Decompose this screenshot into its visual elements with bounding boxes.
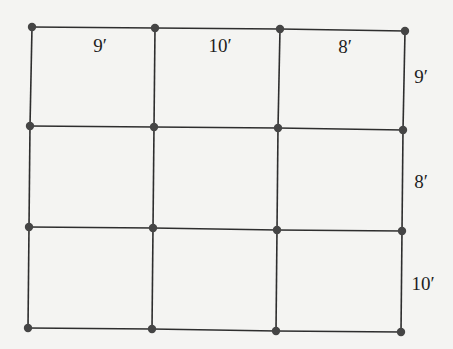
vertex-dot bbox=[399, 126, 407, 134]
grid-vertices bbox=[24, 23, 409, 336]
vertex-dot bbox=[148, 325, 156, 333]
vertex-dot bbox=[150, 123, 158, 131]
vertical-edge bbox=[30, 27, 32, 126]
vertex-dot bbox=[276, 25, 284, 33]
horizontal-edge bbox=[280, 29, 405, 31]
vertical-edge bbox=[29, 126, 30, 227]
vertex-dot bbox=[151, 24, 159, 32]
vertex-dot bbox=[25, 223, 33, 231]
label-right-row-3: 10′ bbox=[411, 274, 434, 293]
vertical-edge bbox=[28, 227, 29, 328]
vertex-dot bbox=[401, 27, 409, 35]
vertical-edge bbox=[277, 128, 278, 230]
vertical-edge bbox=[152, 228, 153, 329]
vertex-dot bbox=[26, 122, 34, 130]
horizontal-edge bbox=[154, 127, 278, 128]
horizontal-edge bbox=[152, 329, 276, 331]
label-top-col-3: 8′ bbox=[338, 37, 352, 56]
grid-edges bbox=[28, 27, 405, 332]
horizontal-edge bbox=[155, 28, 280, 29]
vertical-edge bbox=[402, 130, 403, 231]
grid-diagram: 9′ 10′ 8′ 9′ 8′ 10′ bbox=[0, 0, 453, 349]
label-right-row-1: 9′ bbox=[414, 67, 428, 86]
vertex-dot bbox=[274, 124, 282, 132]
horizontal-edge bbox=[153, 228, 277, 230]
vertical-edge bbox=[278, 29, 280, 128]
vertical-edge bbox=[153, 127, 154, 228]
vertex-dot bbox=[24, 324, 32, 332]
label-right-row-2: 8′ bbox=[414, 172, 428, 191]
horizontal-edge bbox=[29, 227, 153, 228]
vertex-dot bbox=[397, 328, 405, 336]
vertex-dot bbox=[149, 224, 157, 232]
horizontal-edge bbox=[32, 27, 155, 28]
horizontal-edge bbox=[276, 331, 401, 332]
vertex-dot bbox=[398, 227, 406, 235]
vertical-edge bbox=[154, 28, 155, 127]
vertex-dot bbox=[273, 226, 281, 234]
vertex-dot bbox=[28, 23, 36, 31]
label-top-col-2: 10′ bbox=[208, 36, 231, 55]
vertical-edge bbox=[403, 31, 405, 130]
vertex-dot bbox=[272, 327, 280, 335]
horizontal-edge bbox=[28, 328, 152, 329]
horizontal-edge bbox=[278, 128, 403, 130]
horizontal-edge bbox=[30, 126, 154, 127]
vertical-edge bbox=[401, 231, 402, 332]
vertical-edge bbox=[276, 230, 277, 331]
horizontal-edge bbox=[277, 230, 402, 231]
label-top-col-1: 9′ bbox=[93, 36, 107, 55]
